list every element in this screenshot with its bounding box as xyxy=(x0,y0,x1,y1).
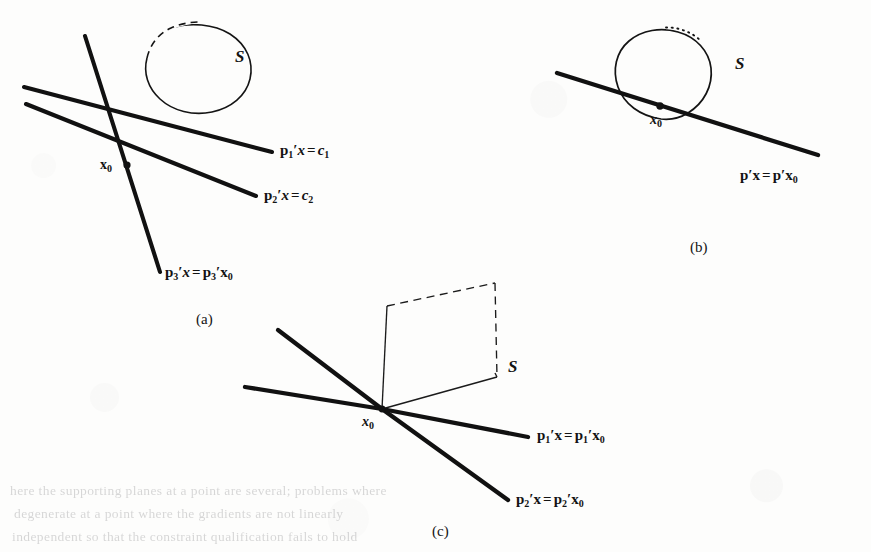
figure-root: S x0 p1′x=c1 p2′x=c2 p3′x=p3′x0 (a) S x0… xyxy=(0,0,871,552)
panel-b-label-tangent-line: p′x=p′x0 xyxy=(740,168,798,183)
p3-rhs: p xyxy=(203,264,211,280)
panel-c-set-right-lower-edge xyxy=(495,373,497,377)
panel-c-line-left xyxy=(245,387,382,409)
panel-c-set-right-dashed-edge xyxy=(495,283,497,377)
panel-b-line-tangent xyxy=(557,73,818,155)
pb-rhs-tail-sub: 0 xyxy=(793,174,798,185)
pc2-var: x xyxy=(534,491,542,507)
p1-var: x xyxy=(298,142,306,158)
pc1-vec-sub: 1 xyxy=(545,434,550,445)
pc2-op: = xyxy=(541,491,554,507)
pb-var: x xyxy=(753,167,761,183)
p2-rhs-sub: 2 xyxy=(308,194,313,205)
panel-a-caption: (a) xyxy=(196,312,213,327)
p3-rhs-tail-var: x xyxy=(220,264,228,280)
panel-c-label-p2-line: p2′x=p2′x0 xyxy=(516,492,584,507)
p1-rhs-sub: 1 xyxy=(324,149,329,160)
panel-a-point-x0-label: x0 xyxy=(100,158,112,172)
p3-op: = xyxy=(190,264,203,280)
bleed-through-line-1: here the supporting planes at a point ar… xyxy=(10,483,387,499)
p3-rhs-sub: 3 xyxy=(211,271,216,282)
panel-c-point-x0 xyxy=(379,406,386,413)
panel-c-geometry xyxy=(245,283,528,500)
pc2-vec-sub: 2 xyxy=(524,498,529,509)
panel-b-point-x0-label: x0 xyxy=(650,113,662,127)
pb-op: = xyxy=(760,167,773,183)
panel-a-set-outline xyxy=(146,25,251,114)
panel-b-point-x0 xyxy=(656,102,663,109)
panel-c-caption: (c) xyxy=(432,524,449,539)
pc1-var: x xyxy=(555,427,563,443)
panel-c-set-bottom-edge xyxy=(382,377,497,409)
pc2-rhs: p xyxy=(554,491,562,507)
panel-a-point-x0-sub: 0 xyxy=(107,163,112,174)
p3-var: x xyxy=(183,264,191,280)
panel-a-point-x0 xyxy=(123,161,130,168)
panel-b-caption: (b) xyxy=(690,240,708,255)
pc2-rhs-tail-sub: 0 xyxy=(579,498,584,509)
panel-a-label-p3-line: p3′x=p3′x0 xyxy=(165,265,233,280)
pc2-rhs-tail-var: x xyxy=(571,491,579,507)
pb-rhs-tail-var: x xyxy=(785,167,793,183)
panel-a-label-p2-line: p2′x=c2 xyxy=(264,188,313,203)
panel-c-set-top-dashed-edge xyxy=(387,283,495,306)
p2-op: = xyxy=(289,187,302,203)
pc1-rhs-sub: 1 xyxy=(583,434,588,445)
panel-b-point-x0-sub: 0 xyxy=(657,118,662,129)
panel-c-point-x0-sub: 0 xyxy=(369,420,374,431)
panel-c-vertical-edge xyxy=(382,306,387,409)
panel-c-point-x0-label: x0 xyxy=(362,415,374,429)
pc1-rhs-tail-sub: 0 xyxy=(600,434,605,445)
panel-c-line-upper-left xyxy=(278,330,382,409)
p1-vec-sub: 1 xyxy=(288,149,293,160)
pc1-rhs: p xyxy=(575,427,583,443)
panel-c-set-label: S xyxy=(508,358,517,375)
p2-var: x xyxy=(282,187,290,203)
pc1-op: = xyxy=(562,427,575,443)
bleed-through-line-2: degenerate at a point where the gradient… xyxy=(14,506,343,522)
figure-canvas xyxy=(0,0,871,552)
p3-vec-sub: 3 xyxy=(173,271,178,282)
bleed-through-line-3: independent so that the constraint quali… xyxy=(12,529,358,545)
panel-a-label-p1-line: p1′x=c1 xyxy=(280,143,329,158)
pb-rhs: p xyxy=(773,167,781,183)
panel-a-set-label: S xyxy=(235,48,244,65)
p1-op: = xyxy=(305,142,318,158)
panel-b-set-label: S xyxy=(735,55,744,72)
panel-c-label-p1-line: p1′x=p1′x0 xyxy=(537,428,605,443)
p3-rhs-tail-sub: 0 xyxy=(228,271,233,282)
panel-b-geometry xyxy=(557,27,818,155)
pc1-rhs-tail-var: x xyxy=(592,427,600,443)
p2-vec-sub: 2 xyxy=(272,194,277,205)
pc2-rhs-sub: 2 xyxy=(562,498,567,509)
